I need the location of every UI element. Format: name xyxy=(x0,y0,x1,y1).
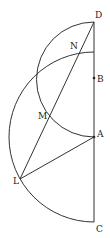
geometry-diagram: D N B M A L C xyxy=(0,0,110,238)
label-a: A xyxy=(96,129,104,139)
arc-centered-a xyxy=(9,52,94,222)
label-c: C xyxy=(96,224,103,234)
label-l: L xyxy=(13,176,19,186)
point-b xyxy=(93,77,96,80)
line-dl xyxy=(20,22,94,179)
line-la xyxy=(20,137,94,179)
label-n: N xyxy=(70,41,78,51)
label-d: D xyxy=(95,10,102,20)
label-m: M xyxy=(38,111,47,121)
point-a xyxy=(93,136,96,139)
label-b: B xyxy=(97,74,104,84)
